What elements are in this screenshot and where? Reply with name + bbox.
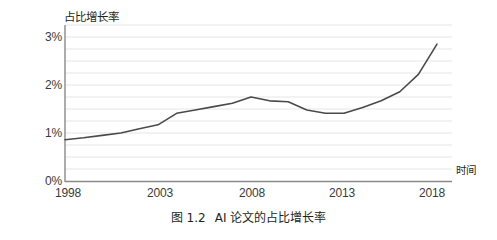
- y-tick-label-3: 3%: [28, 30, 62, 44]
- figure-caption-text: AI 论文的占比增长率: [215, 211, 327, 225]
- x-tick-label-2003: 2003: [130, 186, 190, 200]
- y-tick-label-1: 1%: [28, 126, 62, 140]
- figure-caption: 图 1.2AI 论文的占比增长率: [0, 208, 497, 225]
- y-tick-label-2: 2%: [28, 78, 62, 92]
- x-tick-label-2013: 2013: [312, 186, 372, 200]
- gridlines: [65, 25, 452, 169]
- x-tick-label-2008: 2008: [222, 186, 282, 200]
- x-tick-label-2018: 2018: [402, 186, 462, 200]
- data-series-line: [65, 44, 437, 140]
- figure-caption-number: 图 1.2: [171, 211, 206, 225]
- figure-container: 占比增长率 3% 2% 1% 0% 1998 2003 2008 2013 20…: [0, 0, 497, 240]
- x-axis-title: 时间: [456, 162, 476, 177]
- chart-plot-area: [0, 0, 497, 240]
- x-tick-label-1998: 1998: [38, 186, 98, 200]
